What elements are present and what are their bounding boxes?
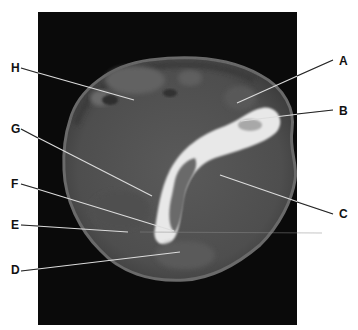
label-e: E — [11, 219, 19, 231]
ct-scan-illustration — [0, 0, 358, 330]
label-a: A — [339, 55, 348, 67]
label-h: H — [11, 62, 20, 74]
label-b: B — [339, 105, 348, 117]
label-g: G — [11, 123, 20, 135]
label-d: D — [11, 264, 20, 276]
label-c: C — [339, 208, 348, 220]
label-f: F — [11, 178, 18, 190]
